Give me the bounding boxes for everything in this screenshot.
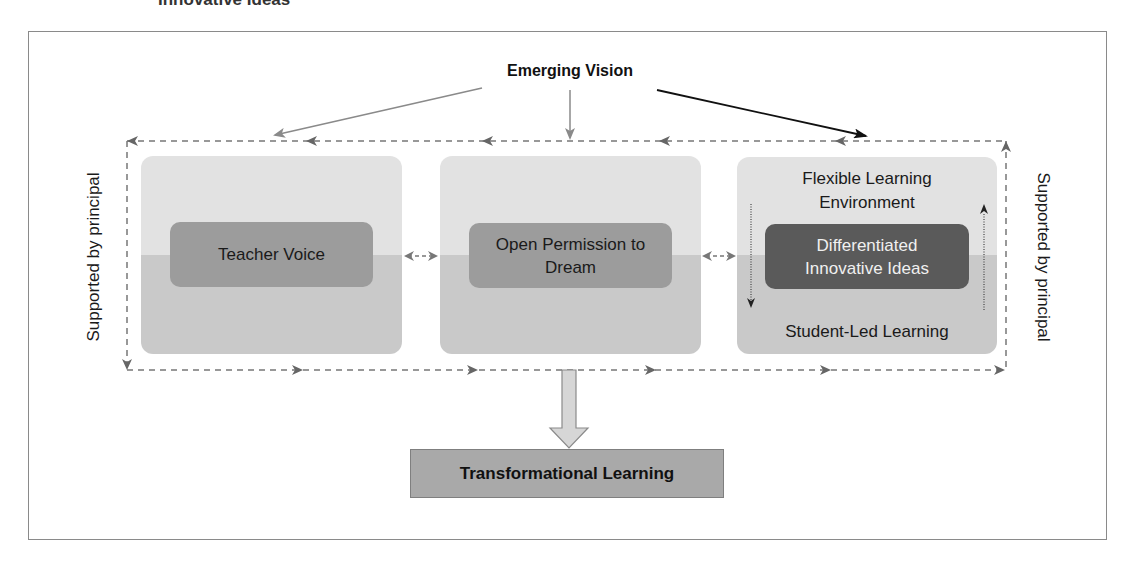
connector-layer xyxy=(0,0,1145,568)
left-loop-arrowhead xyxy=(122,359,132,370)
right-loop-arrowhead xyxy=(1001,141,1011,152)
panel-connector-2 xyxy=(702,251,736,261)
dotted-arrow-up-head xyxy=(980,204,988,214)
dashed-loop xyxy=(127,141,1006,370)
top-loop-arrowheads xyxy=(127,136,846,146)
block-arrow-down xyxy=(550,370,588,448)
vision-arrow-right xyxy=(657,90,866,136)
vision-arrow-left xyxy=(275,88,482,135)
panel-connector-1 xyxy=(404,251,438,261)
vision-arrows xyxy=(275,88,866,138)
